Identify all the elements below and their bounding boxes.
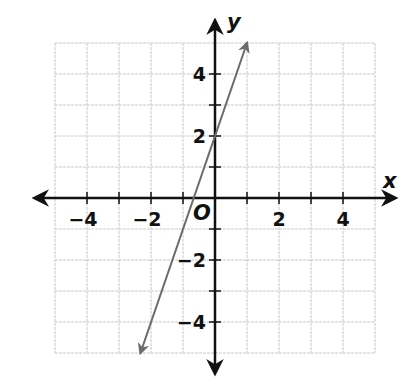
- y-tick-label: −4: [177, 311, 206, 333]
- y-tick-label: −2: [177, 249, 206, 271]
- x-tick-label: 4: [336, 208, 349, 230]
- tick-labels: −4−22442−2−4Oxy: [68, 10, 398, 333]
- y-tick-label: 4: [193, 63, 206, 85]
- y-tick-label: 2: [193, 125, 206, 147]
- y-axis-label: y: [227, 10, 242, 34]
- x-axis-label: x: [382, 169, 398, 193]
- coordinate-plane: −4−22442−2−4Oxy: [0, 0, 415, 382]
- x-tick-label: −4: [68, 208, 97, 230]
- x-tick-label: −2: [132, 208, 161, 230]
- origin-label: O: [193, 201, 211, 225]
- x-tick-label: 2: [272, 208, 285, 230]
